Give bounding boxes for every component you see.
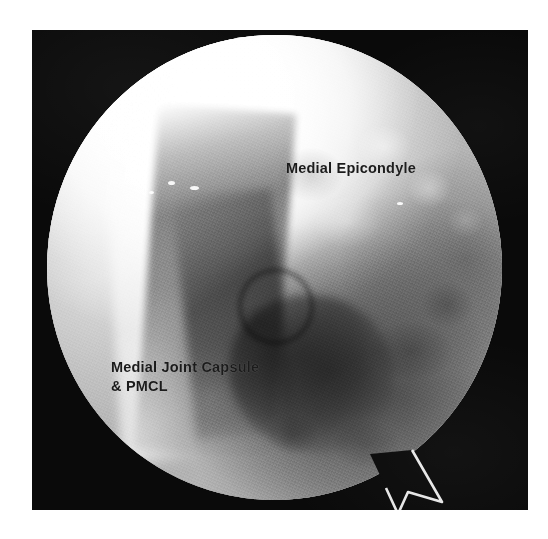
- annotation-medial-epicondyle: Medial Epicondyle: [286, 159, 416, 178]
- arthroscopic-scope-field: [47, 35, 502, 500]
- page-background: Medial Epicondyle Medial Joint Capsule &…: [0, 0, 548, 539]
- photo-frame: Medial Epicondyle Medial Joint Capsule &…: [32, 30, 528, 510]
- film-grain-layer: [47, 35, 502, 500]
- annotation-medial-joint-capsule-pmcl: Medial Joint Capsule & PMCL: [111, 358, 259, 396]
